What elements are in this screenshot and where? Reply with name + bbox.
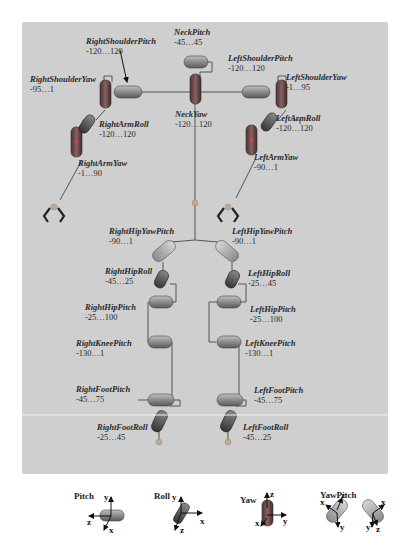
label-right-arm-roll: RightArmRoll -120…120	[99, 119, 149, 139]
svg-text:x: x	[255, 518, 260, 528]
legend-yawpitch-label: YawPitch	[320, 490, 357, 500]
joint-name: NeckPitch	[174, 27, 210, 37]
label-neck-yaw: NeckYaw -120…120	[175, 109, 212, 129]
joint-range: -45…75	[76, 394, 130, 404]
label-left-hip-roll: LeftHipRoll -25…45	[248, 268, 290, 288]
label-left-shoulder-yaw: LeftShoulderYaw -1…95	[286, 72, 347, 92]
label-left-hip-pitch: LeftHipPitch -25…100	[250, 304, 296, 324]
svg-text:y: y	[340, 522, 345, 532]
svg-text:x: x	[109, 525, 114, 535]
joint-name: RightShoulderYaw	[30, 74, 96, 84]
joint-range: -25…100	[85, 312, 136, 322]
label-right-shoulder-yaw: RightShoulderYaw -95…1	[30, 74, 96, 94]
svg-text:z: z	[270, 489, 274, 499]
label-right-arm-yaw: RightArmYaw -1…90	[78, 158, 127, 178]
joint-range: -120…120	[86, 46, 156, 56]
label-right-hip-yaw-pitch: RightHipYawPitch -90…1	[109, 226, 174, 246]
joint-name: LeftFootRoll	[243, 422, 288, 432]
joint-name: LeftHipPitch	[250, 304, 296, 314]
label-left-knee-pitch: LeftKneePitch -130…1	[245, 338, 296, 358]
joint-range: -1…90	[78, 168, 127, 178]
svg-text:z: z	[180, 525, 184, 535]
joint-name: RightArmRoll	[99, 119, 149, 129]
joint-range: -120…120	[276, 123, 320, 133]
svg-text:z: z	[376, 524, 380, 534]
label-left-foot-roll: LeftFootRoll -45…25	[243, 422, 288, 442]
joint-range: -120…120	[99, 129, 149, 139]
joint-name: LeftShoulderPitch	[228, 53, 293, 63]
joint-range: -90…1	[232, 236, 292, 246]
joint-name: RightHipYawPitch	[109, 226, 174, 236]
joint-range: -120…120	[228, 63, 293, 73]
label-neck-pitch: NeckPitch -45…45	[174, 27, 210, 47]
label-left-shoulder-pitch: LeftShoulderPitch -120…120	[228, 53, 293, 73]
joint-name: LeftKneePitch	[245, 338, 296, 348]
svg-text:y: y	[172, 492, 177, 502]
joint-name: RightHipRoll	[105, 266, 152, 276]
svg-text:z: z	[87, 517, 91, 527]
joint-range: -25…45	[248, 278, 290, 288]
legend-yaw-label: Yaw	[240, 495, 257, 505]
label-left-arm-roll: LeftArmRoll -120…120	[276, 113, 320, 133]
label-right-foot-roll: RightFootRoll -25…45	[97, 422, 148, 442]
joint-range: -25…100	[250, 314, 296, 324]
joint-name: RightHipPitch	[85, 302, 136, 312]
label-left-foot-pitch: LeftFootPitch -45…75	[254, 385, 303, 405]
joint-name: LeftArmYaw	[254, 152, 298, 162]
label-left-hip-yaw-pitch: LeftHipYawPitch -90…1	[232, 226, 292, 246]
joint-range: -130…1	[76, 348, 132, 358]
joint-range: -1…95	[286, 82, 347, 92]
joint-name: RightKneePitch	[76, 338, 132, 348]
joint-range: -45…75	[254, 395, 303, 405]
label-right-foot-pitch: RightFootPitch -45…75	[76, 384, 130, 404]
joint-name: RightFootPitch	[76, 384, 130, 394]
joint-name: LeftHipYawPitch	[232, 226, 292, 236]
joint-range: -130…1	[245, 348, 296, 358]
joint-name: LeftShoulderYaw	[286, 72, 347, 82]
joint-range: -25…45	[97, 432, 148, 442]
joint-name: NeckYaw	[175, 109, 212, 119]
joint-range: -90…1	[254, 162, 298, 172]
label-left-arm-yaw: LeftArmYaw -90…1	[254, 152, 298, 172]
svg-text:x: x	[381, 497, 386, 507]
label-right-hip-pitch: RightHipPitch -25…100	[85, 302, 136, 322]
joint-range: -95…1	[30, 84, 96, 94]
legend-roll-label: Roll	[154, 491, 170, 501]
joint-name: LeftFootPitch	[254, 385, 303, 395]
label-right-shoulder-pitch: RightShoulderPitch -120…120	[86, 36, 156, 56]
legend-yaw-icon: zyx	[255, 489, 288, 528]
joint-range: -120…120	[175, 119, 212, 129]
label-right-hip-roll: RightHipRoll -45…25	[105, 266, 152, 286]
joint-range: -90…1	[109, 236, 174, 246]
joint-range: -45…25	[105, 276, 152, 286]
joint-name: LeftHipRoll	[248, 268, 290, 278]
legend-pitch-label: Pitch	[74, 491, 94, 501]
joint-name: LeftArmRoll	[276, 113, 320, 123]
label-right-knee-pitch: RightKneePitch -130…1	[76, 338, 132, 358]
svg-text:y: y	[104, 492, 109, 502]
joint-range: -45…45	[174, 37, 210, 47]
legend-roll-icon: yxz	[172, 492, 205, 535]
joint-name: RightFootRoll	[97, 422, 148, 432]
svg-text:y: y	[366, 522, 371, 532]
svg-text:y: y	[283, 516, 288, 526]
joint-name: RightArmYaw	[78, 158, 127, 168]
joint-name: RightShoulderPitch	[86, 36, 156, 46]
svg-text:x: x	[200, 516, 205, 526]
joint-range: -45…25	[243, 432, 288, 442]
